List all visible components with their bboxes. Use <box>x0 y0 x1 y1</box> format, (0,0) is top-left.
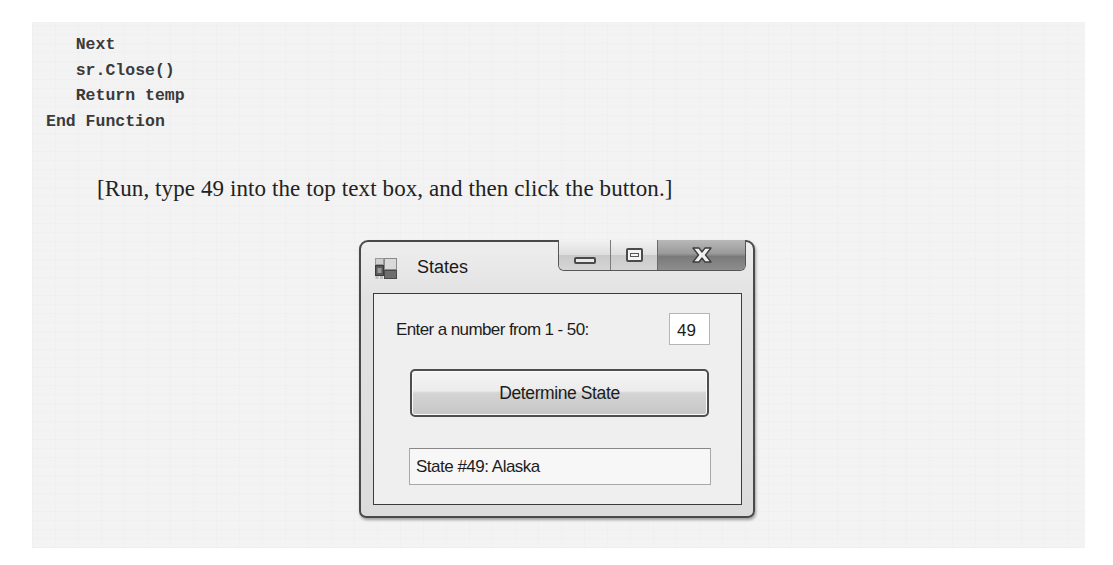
maximize-button[interactable] <box>611 240 658 270</box>
window-title: States <box>417 257 468 278</box>
form-client-area: Enter a number from 1 - 50: Determine St… <box>373 293 742 505</box>
title-bar[interactable]: States <box>361 242 753 292</box>
code-line: Return temp <box>46 83 185 109</box>
number-input[interactable] <box>669 313 710 345</box>
result-output-box: State #49: Alaska <box>409 448 711 485</box>
caption-buttons <box>558 240 746 271</box>
maximize-icon <box>626 248 643 262</box>
instruction-text: [Run, type 49 into the top text box, and… <box>97 176 673 202</box>
form-app-icon <box>375 258 397 280</box>
close-icon <box>689 246 715 264</box>
minimize-button[interactable] <box>559 240 611 270</box>
states-window: States Enter a number from 1 - 50: Deter… <box>359 240 755 518</box>
code-listing: Next sr.Close() Return tempEnd Function <box>46 32 185 134</box>
code-line: End Function <box>46 109 185 135</box>
textbook-page: Next sr.Close() Return tempEnd Function … <box>0 0 1113 565</box>
number-prompt-label: Enter a number from 1 - 50: <box>396 320 589 340</box>
minimize-icon <box>574 257 596 264</box>
code-line: Next <box>46 32 185 58</box>
code-line: sr.Close() <box>46 58 185 84</box>
close-button[interactable] <box>658 240 745 270</box>
determine-state-button[interactable]: Determine State <box>410 369 709 417</box>
